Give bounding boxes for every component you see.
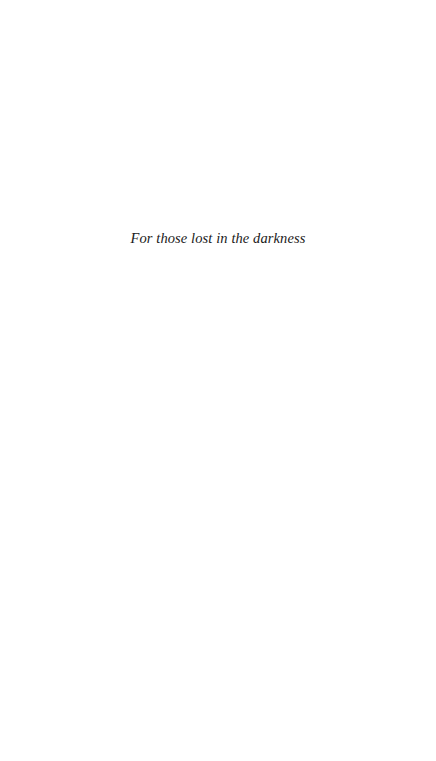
dedication-text: For those lost in the darkness xyxy=(0,228,436,248)
dedication-page: For those lost in the darkness xyxy=(0,0,436,761)
